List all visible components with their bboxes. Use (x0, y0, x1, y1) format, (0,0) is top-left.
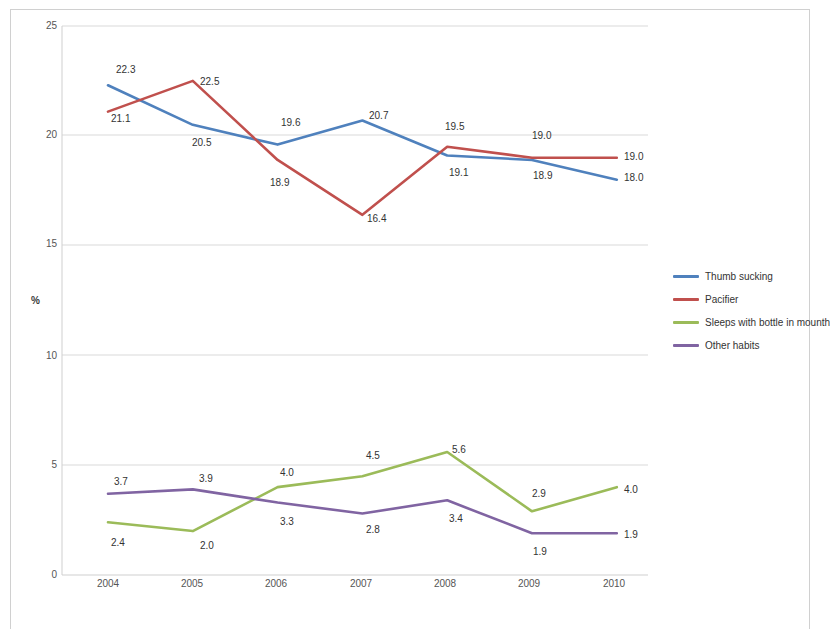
data-label-other-1: 3.9 (199, 473, 213, 484)
legend-item-bottle[interactable]: Sleeps with bottle in mounth (673, 312, 818, 332)
data-label-other-6: 1.9 (624, 529, 638, 540)
data-label-thumb-3: 20.7 (369, 110, 388, 121)
legend-swatch-icon-thumb-sucking (673, 275, 699, 278)
data-label-bottle-0: 2.4 (111, 537, 125, 548)
data-label-pacifier-2: 18.9 (270, 177, 289, 188)
gridlines (62, 26, 648, 465)
data-label-thumb-0: 22.3 (116, 64, 135, 75)
data-label-thumb-6: 18.0 (624, 172, 643, 183)
data-label-bottle-3: 4.5 (366, 450, 380, 461)
data-label-bottle-4: 5.6 (452, 444, 466, 455)
data-label-pacifier-1: 22.5 (200, 76, 219, 87)
chart-legend: Thumb sucking Pacifier Sleeps with bottl… (673, 266, 818, 358)
legend-label-bottle: Sleeps with bottle in mounth (705, 317, 830, 328)
legend-swatch-icon-bottle (673, 321, 699, 324)
data-label-pacifier-3: 16.4 (367, 213, 386, 224)
data-label-bottle-2: 4.0 (280, 467, 294, 478)
data-label-bottle-5: 2.9 (532, 488, 546, 499)
data-label-bottle-6: 4.0 (624, 484, 638, 495)
data-label-pacifier-6: 19.0 (624, 151, 643, 162)
data-label-other-4: 3.4 (449, 513, 463, 524)
legend-item-thumb-sucking[interactable]: Thumb sucking (673, 266, 818, 286)
data-label-other-2: 3.3 (280, 516, 294, 527)
data-label-thumb-1: 20.5 (192, 137, 211, 148)
data-label-other-0: 3.7 (114, 476, 128, 487)
legend-swatch-icon-other-habits (673, 344, 699, 347)
series-line-pacifier (108, 81, 617, 215)
data-label-thumb-4: 19.1 (449, 167, 468, 178)
legend-label-thumb-sucking: Thumb sucking (705, 271, 773, 282)
data-label-other-5: 1.9 (533, 546, 547, 557)
legend-label-pacifier: Pacifier (705, 294, 738, 305)
data-label-pacifier-0: 21.1 (111, 113, 130, 124)
data-label-thumb-2: 19.6 (281, 117, 300, 128)
data-label-pacifier-4: 19.5 (445, 121, 464, 132)
legend-swatch-icon-pacifier (673, 298, 699, 301)
data-label-bottle-1: 2.0 (200, 540, 214, 551)
legend-label-other-habits: Other habits (705, 340, 759, 351)
legend-item-other-habits[interactable]: Other habits (673, 335, 818, 355)
data-label-pacifier-5: 19.0 (532, 130, 551, 141)
data-label-other-3: 2.8 (366, 524, 380, 535)
data-label-thumb-5: 18.9 (533, 170, 552, 181)
legend-item-pacifier[interactable]: Pacifier (673, 289, 818, 309)
